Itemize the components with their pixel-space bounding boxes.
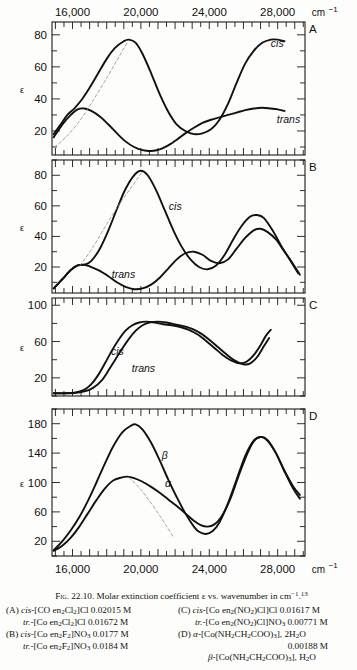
panel-letter-D: D [309, 410, 317, 422]
x-axis-unit-exponent-bottom: −1 [329, 561, 339, 570]
y-tick-label: 80 [34, 29, 47, 41]
panel-frame [52, 160, 305, 293]
title-exponent: −1 [291, 590, 298, 598]
caption-column-left: (A) cis-[CO en2Cl2]Cl 0.02015 M tr.-[Co … [6, 605, 178, 665]
curve-label-trans: trans [277, 113, 301, 125]
caption-entry-c-line2: tr.-[Co en2(NO2)Cl]NO3 0.00771 M [178, 617, 350, 629]
y-tick-label: 20 [34, 535, 47, 547]
y-tick-label: 80 [34, 169, 47, 181]
curve-cis [54, 322, 271, 394]
caption-title-line: Fig. 22.10. Molar extinction coefficient… [0, 590, 357, 603]
y-tick-label: 40 [34, 230, 47, 242]
curve-label-cis: cis [271, 37, 285, 49]
x-axis-unit-top: cm [312, 7, 325, 18]
curve-cis-shoulder-construction [55, 41, 129, 147]
y-axis-symbol: ε [20, 85, 24, 95]
y-tick-label: 60 [34, 61, 47, 73]
formula-part: ], 2H [277, 629, 296, 639]
x-tick-label-top: 28,000 [260, 6, 295, 18]
formula-tail: O [309, 652, 316, 662]
caption-entry-d-concentration: 0.00188 M [178, 641, 350, 653]
panel-letter-C: C [309, 299, 317, 311]
y-tick-label: 60 [34, 506, 47, 518]
formula-part: -[CO en [31, 605, 61, 615]
y-tick-label: 100 [28, 477, 47, 489]
formula-tail: O [299, 629, 306, 639]
formula-part: CH [249, 652, 262, 662]
x-axis-unit-bottom: cm [312, 564, 325, 575]
caption-entry-d-line3: β-[Co(NH2CH2COO)3], H2O [178, 652, 350, 664]
formula-tail: 0.00771 M [285, 617, 328, 627]
figure-label: Fig. 22.10. [55, 591, 94, 601]
panel-letter-A: A [309, 23, 317, 35]
curve-trans [54, 322, 269, 394]
figure-title-text: Molar extinction coefficient ε vs. waven… [97, 591, 292, 601]
formula-part: CH [235, 629, 248, 639]
formula-part: )Cl]NO [254, 617, 282, 627]
x-axis-unit-exponent-top: −1 [329, 5, 339, 14]
panel-B: 20406080εBcistrans [20, 160, 317, 293]
formula-tail: 0.0184 M [90, 641, 128, 651]
formula-part: (NO [234, 617, 250, 627]
formula-part: COO) [266, 652, 288, 662]
formula-tail: ]Cl 0.02015 M [77, 605, 131, 615]
formula-tail: 0.0177 M [91, 629, 129, 639]
panel-letter-B: B [309, 161, 317, 173]
formula-tail: )Cl]Cl 0.01617 M [254, 605, 320, 615]
formula-part: (NO [234, 605, 250, 615]
x-tick-label-top: 20,000 [123, 6, 158, 18]
caption-entry-a-line1: (A) cis-[CO en2Cl2]Cl 0.02015 M [6, 605, 178, 617]
figure-22-10: 16,00020,00024,00028,000cm−116,00020,000… [0, 0, 357, 670]
caption-key-d: (D) [178, 629, 191, 639]
caption-key-c: (C) [178, 605, 190, 615]
caption-columns: (A) cis-[CO en2Cl2]Cl 0.02015 M tr.-[Co … [0, 605, 357, 665]
spectra-svg: 16,00020,00024,00028,000cm−116,00020,000… [0, 0, 357, 590]
formula-part: ]NO [71, 629, 87, 639]
caption-key-b: (B) [6, 629, 18, 639]
caption-entry-b-line1: (B) cis-[Co en2F2]NO3 0.0177 M [6, 629, 178, 641]
panel-frame [52, 409, 305, 556]
y-axis-symbol: ε [20, 343, 24, 353]
formula-part: -[Co en [31, 629, 59, 639]
y-tick-label: 20 [34, 372, 47, 384]
x-tick-label-bottom: 20,000 [123, 563, 158, 575]
formula-part: -[Co(NH [198, 629, 231, 639]
curve-beta [54, 424, 300, 550]
y-tick-label: 60 [34, 336, 47, 348]
spectra-panels: 16,00020,00024,00028,000cm−116,00020,000… [0, 0, 357, 590]
caption-entry-b-line2: tr.-[Co en2F2]NO3 0.0184 M [6, 641, 178, 653]
y-tick-label: 40 [34, 93, 47, 105]
caption-entry-c-line1: (C) cis-[Co en2(NO2)Cl]Cl 0.01617 M [178, 605, 350, 617]
curve-label-cis: cis [169, 200, 183, 212]
panel-D: 2060100140180εDβα [20, 409, 317, 556]
curve-label-α: α [165, 477, 172, 489]
formula-part: COO) [251, 629, 273, 639]
panel-frame [52, 298, 305, 396]
formula-part: -[Co(NH [213, 652, 246, 662]
formula-part: -[Co en [30, 641, 58, 651]
formula-part: ]NO [70, 641, 86, 651]
x-tick-label-bottom: 16,000 [55, 563, 90, 575]
y-tick-label: 180 [28, 418, 47, 430]
curve-cis-shoulder-construction [80, 172, 142, 265]
caption-entry-a-line2: tr.-[Co en2Cl2]Cl 0.01672 M [6, 617, 178, 629]
formula-part: -[Co en [202, 617, 230, 627]
panel-C: 2060100εCcistrans [20, 298, 317, 396]
formula-part: ], H [291, 652, 305, 662]
x-tick-label-top: 16,000 [55, 6, 90, 18]
y-axis-symbol: ε [20, 223, 24, 233]
caption-column-right: (C) cis-[Co en2(NO2)Cl]Cl 0.01617 M tr.-… [178, 605, 350, 665]
x-tick-label-bottom: 28,000 [260, 563, 295, 575]
curve-label-trans: trans [132, 362, 156, 374]
y-tick-label: 20 [34, 125, 47, 137]
isomer-prefix: cis [193, 605, 203, 615]
curve-label-trans: trans [112, 268, 136, 280]
curve-label-cis: cis [111, 345, 125, 357]
figure-caption: Fig. 22.10. Molar extinction coefficient… [0, 590, 357, 670]
x-tick-label-bottom: 24,000 [192, 563, 227, 575]
isomer-prefix: cis [21, 629, 31, 639]
formula-tail: ]Cl 0.01672 M [74, 617, 128, 627]
y-tick-label: 100 [28, 299, 47, 311]
x-tick-label-top: 24,000 [192, 6, 227, 18]
caption-entry-d-line1: (D) α-[Co(NH2CH2COO)3], 2H2O [178, 629, 350, 641]
